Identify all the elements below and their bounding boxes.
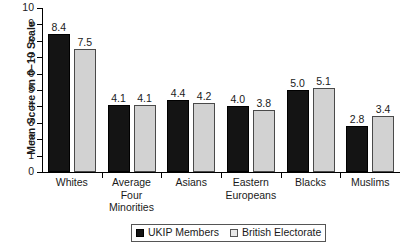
bar-value-label: 8.4	[52, 21, 67, 33]
y-axis-tick: 4	[37, 106, 42, 107]
bar[interactable]: 8.4	[48, 34, 70, 172]
bar[interactable]: 4.0	[227, 106, 249, 172]
bar-value-label: 7.5	[78, 36, 93, 48]
y-axis-tick: 10	[37, 8, 42, 9]
bar-chart: Mean Score on 0–10 Scale 012345678910 8.…	[0, 0, 404, 245]
y-axis-tick-label: 10	[22, 1, 34, 14]
y-axis-tick: 9	[37, 24, 42, 25]
bar-group: 2.83.4	[346, 8, 394, 172]
bar-group: 4.03.8	[227, 8, 275, 172]
bar-group: 4.14.1	[108, 8, 156, 172]
y-axis-tick-label: 2	[28, 132, 34, 145]
bar[interactable]: 2.8	[346, 126, 368, 172]
y-axis-tick-label: 6	[28, 67, 34, 80]
y-axis-tick: 7	[37, 57, 42, 58]
bar-group: 4.44.2	[167, 8, 215, 172]
bar-group: 5.05.1	[287, 8, 335, 172]
bar-value-label: 5.1	[316, 75, 331, 87]
bar-value-label: 4.1	[137, 92, 152, 104]
y-axis-line	[42, 8, 43, 172]
legend-item[interactable]: UKIP Members	[136, 226, 219, 239]
legend-swatch-icon	[230, 229, 238, 237]
bar[interactable]: 5.1	[313, 88, 335, 172]
bar[interactable]: 3.4	[372, 116, 394, 172]
y-axis-tick-label: 7	[28, 50, 34, 63]
bar-value-label: 4.0	[231, 93, 246, 105]
bar-value-label: 2.8	[350, 113, 365, 125]
bar[interactable]: 5.0	[287, 90, 309, 172]
y-axis-tick: 0	[37, 172, 42, 173]
bar-value-label: 4.4	[171, 87, 186, 99]
y-axis-tick: 3	[37, 123, 42, 124]
y-axis-tick: 6	[37, 74, 42, 75]
bar-value-label: 4.2	[197, 90, 212, 102]
y-axis-tick: 1	[37, 156, 42, 157]
bar[interactable]: 7.5	[74, 49, 96, 172]
plot-area: 012345678910 8.47.54.14.14.44.24.03.85.0…	[42, 8, 400, 172]
y-axis-tick: 8	[37, 41, 42, 42]
y-axis-tick-label: 9	[28, 17, 34, 30]
bar-value-label: 5.0	[290, 77, 305, 89]
y-axis-tick-label: 3	[28, 116, 34, 129]
y-axis-tick-label: 1	[28, 149, 34, 162]
legend-item-label: UKIP Members	[148, 226, 219, 239]
bar-group: 8.47.5	[48, 8, 96, 172]
y-axis-tick: 2	[37, 139, 42, 140]
y-axis-tick-label: 8	[28, 34, 34, 47]
legend-item[interactable]: British Electorate	[230, 226, 321, 239]
chart-legend: UKIP MembersBritish Electorate	[131, 224, 326, 242]
bar[interactable]: 4.1	[108, 105, 130, 172]
bar-value-label: 4.1	[111, 92, 126, 104]
legend-item-label: British Electorate	[242, 226, 321, 239]
y-axis-tick-label: 5	[28, 83, 34, 96]
x-axis-category-label: Muslims	[318, 176, 404, 189]
bar[interactable]: 4.1	[134, 105, 156, 172]
bar-value-label: 3.8	[257, 97, 272, 109]
legend-swatch-icon	[136, 229, 144, 237]
y-axis-tick-label: 4	[28, 99, 34, 112]
bar[interactable]: 4.2	[193, 103, 215, 172]
bar[interactable]: 3.8	[253, 110, 275, 172]
y-axis-tick: 5	[37, 90, 42, 91]
bar-value-label: 3.4	[376, 103, 391, 115]
bar[interactable]: 4.4	[167, 100, 189, 172]
